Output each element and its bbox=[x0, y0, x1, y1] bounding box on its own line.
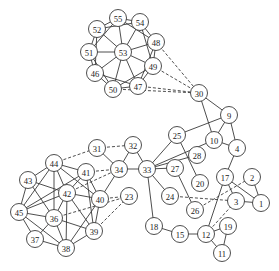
node-37: 37 bbox=[27, 231, 44, 248]
node-label: 12 bbox=[202, 230, 211, 240]
node-label: 36 bbox=[50, 214, 59, 224]
node-label: 18 bbox=[150, 222, 159, 232]
node-48: 48 bbox=[148, 34, 165, 51]
node-label: 45 bbox=[15, 208, 24, 218]
node-label: 39 bbox=[90, 227, 99, 237]
node-44: 44 bbox=[46, 155, 63, 172]
node-label: 20 bbox=[196, 179, 205, 189]
node-10: 10 bbox=[206, 132, 223, 149]
node-18: 18 bbox=[146, 218, 163, 235]
node-label: 37 bbox=[31, 235, 40, 245]
node-41: 41 bbox=[78, 164, 95, 181]
node-54: 54 bbox=[132, 14, 149, 31]
node-32: 32 bbox=[125, 137, 142, 154]
edge-50-30 bbox=[113, 89, 199, 93]
node-28: 28 bbox=[189, 147, 206, 164]
node-27: 27 bbox=[167, 160, 184, 177]
node-1: 1 bbox=[253, 195, 270, 212]
node-label: 33 bbox=[143, 165, 152, 175]
node-39: 39 bbox=[86, 223, 103, 240]
node-label: 26 bbox=[191, 206, 200, 216]
node-52: 52 bbox=[89, 21, 106, 38]
node-label: 51 bbox=[85, 48, 94, 58]
node-label: 9 bbox=[227, 111, 231, 121]
node-12: 12 bbox=[198, 226, 215, 243]
node-31: 31 bbox=[89, 140, 106, 157]
node-label: 23 bbox=[125, 192, 134, 202]
node-43: 43 bbox=[20, 172, 37, 189]
node-53: 53 bbox=[115, 44, 132, 61]
node-label: 1 bbox=[259, 199, 263, 209]
node-40: 40 bbox=[92, 191, 109, 208]
node-label: 32 bbox=[129, 141, 138, 151]
node-17: 17 bbox=[217, 169, 234, 186]
node-label: 54 bbox=[136, 18, 145, 28]
node-label: 15 bbox=[176, 230, 185, 240]
node-20: 20 bbox=[192, 175, 209, 192]
node-label: 41 bbox=[82, 168, 91, 178]
node-30: 30 bbox=[191, 85, 208, 102]
edge-24-3 bbox=[170, 196, 236, 201]
node-label: 50 bbox=[109, 85, 118, 95]
node-15: 15 bbox=[172, 226, 189, 243]
node-label: 30 bbox=[195, 89, 204, 99]
node-label: 43 bbox=[24, 176, 33, 186]
node-55: 55 bbox=[110, 10, 127, 27]
node-label: 34 bbox=[115, 165, 124, 175]
node-label: 31 bbox=[93, 144, 102, 154]
edge-48-30 bbox=[156, 42, 199, 93]
node-50: 50 bbox=[105, 81, 122, 98]
node-36: 36 bbox=[46, 210, 63, 227]
node-label: 10 bbox=[210, 136, 219, 146]
node-label: 24 bbox=[166, 192, 175, 202]
node-label: 27 bbox=[171, 164, 180, 174]
node-2: 2 bbox=[244, 169, 261, 186]
network-graph: 1234910111215171819202324252627283031323… bbox=[0, 0, 279, 271]
node-3: 3 bbox=[228, 193, 245, 210]
node-label: 42 bbox=[63, 189, 72, 199]
node-11: 11 bbox=[214, 245, 231, 262]
node-label: 53 bbox=[119, 48, 128, 58]
node-label: 48 bbox=[152, 38, 161, 48]
node-label: 11 bbox=[218, 249, 226, 259]
node-34: 34 bbox=[111, 161, 128, 178]
node-47: 47 bbox=[130, 78, 147, 95]
node-25: 25 bbox=[169, 127, 186, 144]
node-label: 38 bbox=[62, 244, 71, 254]
node-label: 52 bbox=[93, 25, 102, 35]
node-label: 44 bbox=[50, 159, 59, 169]
node-51: 51 bbox=[81, 44, 98, 61]
node-label: 19 bbox=[224, 222, 233, 232]
node-9: 9 bbox=[221, 107, 238, 124]
node-label: 46 bbox=[91, 69, 100, 79]
node-33: 33 bbox=[139, 161, 156, 178]
node-38: 38 bbox=[58, 240, 75, 257]
node-4: 4 bbox=[229, 140, 246, 157]
node-label: 47 bbox=[134, 82, 143, 92]
node-23: 23 bbox=[121, 188, 138, 205]
node-label: 17 bbox=[221, 173, 230, 183]
node-45: 45 bbox=[11, 204, 28, 221]
node-label: 28 bbox=[193, 151, 202, 161]
node-24: 24 bbox=[162, 188, 179, 205]
node-label: 40 bbox=[96, 195, 105, 205]
node-19: 19 bbox=[220, 218, 237, 235]
node-label: 2 bbox=[250, 173, 254, 183]
node-49: 49 bbox=[145, 58, 162, 75]
node-26: 26 bbox=[187, 202, 204, 219]
node-46: 46 bbox=[87, 65, 104, 82]
node-label: 25 bbox=[173, 131, 182, 141]
node-42: 42 bbox=[59, 185, 76, 202]
node-label: 55 bbox=[114, 14, 123, 24]
node-label: 3 bbox=[234, 197, 238, 207]
node-label: 49 bbox=[149, 62, 158, 72]
